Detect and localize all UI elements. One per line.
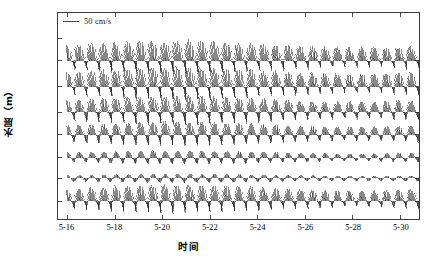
x-tick-5-18: 5-18 (106, 222, 122, 232)
x-tick-5-28: 5-28 (345, 222, 361, 232)
stick-plot-figure: 水层（m） 4710141822垂向平均 50 cm/s 5-165-185-2… (0, 0, 435, 266)
x-tick-5-30: 5-30 (393, 222, 409, 232)
scale-bar-icon (63, 21, 79, 22)
x-axis-title: 时间 (0, 239, 435, 253)
x-tick-5-22: 5-22 (202, 222, 218, 232)
plot-area (57, 12, 420, 220)
x-tick-5-16: 5-16 (59, 222, 75, 232)
stick-vectors-path (66, 39, 419, 213)
scale-legend-label: 50 cm/s (84, 16, 111, 26)
x-tick-5-20: 5-20 (154, 222, 170, 232)
scale-legend: 50 cm/s (63, 16, 111, 26)
x-axis-title-label: 时间 (178, 239, 200, 253)
x-axis-tick-labels: 5-165-185-205-225-245-265-285-30 (0, 222, 435, 238)
x-tick-5-26: 5-26 (297, 222, 313, 232)
current-vector-sticks (58, 13, 419, 219)
x-tick-5-24: 5-24 (250, 222, 266, 232)
